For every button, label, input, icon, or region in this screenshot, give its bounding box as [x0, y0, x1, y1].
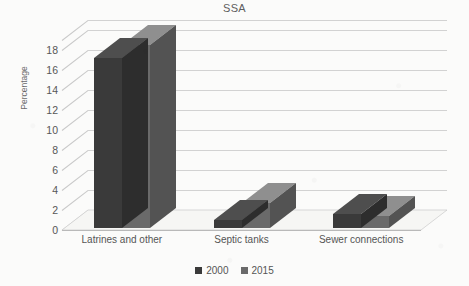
x-axis-label-3: Sewer connections — [291, 234, 431, 245]
bar-geometry — [94, 38, 148, 230]
y-tick-4: 4 — [32, 185, 58, 196]
bar-geometry — [214, 200, 268, 230]
bar-side-face — [122, 38, 148, 228]
y-axis-title: Percentage — [19, 48, 29, 128]
y-tick-2: 2 — [32, 205, 58, 216]
bar-front-face — [214, 220, 242, 228]
legend-swatch-icon — [195, 267, 202, 274]
y-tick-16: 16 — [32, 65, 58, 76]
chart-title: SSA — [0, 2, 469, 14]
gridline-horizontal — [88, 20, 447, 21]
legend-label: 2000 — [206, 265, 228, 276]
bar-geometry — [333, 194, 387, 230]
y-tick-8: 8 — [32, 145, 58, 156]
legend-item-2015[interactable]: 2015 — [241, 265, 274, 276]
axis-baseline — [62, 230, 421, 231]
bar-side-face — [150, 25, 176, 228]
plot-area — [62, 40, 447, 230]
gridline-depth — [62, 20, 89, 41]
y-tick-14: 14 — [32, 85, 58, 96]
chart-legend: 20002015 — [0, 265, 469, 276]
bar-2000-3[interactable] — [333, 196, 361, 230]
bar-front-face — [333, 214, 361, 228]
bar-front-face — [94, 58, 122, 228]
y-tick-6: 6 — [32, 165, 58, 176]
bar-2000-2[interactable] — [214, 202, 242, 230]
y-tick-12: 12 — [32, 105, 58, 116]
legend-label: 2015 — [252, 265, 274, 276]
y-tick-18: 18 — [32, 45, 58, 56]
legend-item-2000[interactable]: 2000 — [195, 265, 228, 276]
y-tick-10: 10 — [32, 125, 58, 136]
legend-swatch-icon — [241, 267, 248, 274]
bar-2000-1[interactable] — [94, 40, 122, 230]
